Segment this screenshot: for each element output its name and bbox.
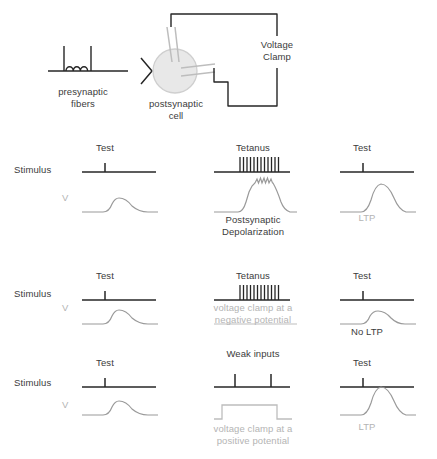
voltage-clamp-line2: Clamp: [263, 51, 291, 62]
voltage-trace-epsp-small: [82, 310, 158, 324]
presynaptic-label-line2: fibers: [71, 98, 95, 109]
caption-line1: voltage clamp at a: [214, 302, 293, 313]
row-positive-clamp-panel2-stim-label: Weak inputs: [211, 348, 295, 360]
presynaptic-coil-icon: [64, 46, 91, 71]
voltage-trace-epsp-small: [82, 401, 158, 415]
stimulus-mark-tetanus-burst: [240, 157, 279, 172]
caption-line2: positive potential: [217, 435, 290, 446]
voltage-trace-epsp-small: [340, 311, 416, 324]
postsynaptic-label-line2: cell: [169, 110, 184, 121]
presynaptic-label-line1: presynaptic: [58, 86, 108, 97]
voltage-trace-depolarization: [214, 178, 297, 212]
presynaptic-fibers-label: presynaptic fibers: [38, 86, 128, 109]
postsynaptic-cell-label: postsynaptic cell: [130, 98, 222, 121]
voltage-trace-epsp-small: [82, 198, 158, 212]
row-positive-clamp-panel3-trace-label: LTP: [340, 421, 394, 433]
row-positive-clamp-panel2-caption: voltage clamp at a positive potential: [203, 423, 303, 446]
voltage-clamp-label: Voltage Clamp: [248, 39, 306, 62]
postsynaptic-cell-icon: [153, 49, 197, 93]
caption-line1: voltage clamp at a: [214, 423, 293, 434]
synaptic-terminal-icon: [141, 58, 152, 84]
caption-line2: negative potential: [215, 314, 291, 325]
voltage-trace-square-step: [214, 405, 292, 419]
caption-line1: Postsynaptic: [225, 214, 280, 225]
caption-line2: Depolarization: [222, 226, 284, 237]
figure-canvas: presynaptic fibers postsynaptic cell Vol…: [0, 0, 437, 459]
postsynaptic-label-line1: postsynaptic: [149, 98, 203, 109]
row-negative-clamp-panel2-caption: voltage clamp at a negative potential: [203, 302, 303, 325]
voltage-trace-epsp-large: [340, 184, 416, 212]
row-control-panel3-trace-label: LTP: [340, 212, 394, 224]
stimulus-mark-tetanus-burst: [240, 285, 279, 300]
voltage-clamp-line1: Voltage: [261, 39, 293, 50]
row-negative-clamp-panel3-trace-label: No LTP: [335, 326, 399, 338]
voltage-trace-epsp-large: [340, 387, 416, 415]
row-control-panel2-caption: Postsynaptic Depolarization: [206, 214, 300, 237]
